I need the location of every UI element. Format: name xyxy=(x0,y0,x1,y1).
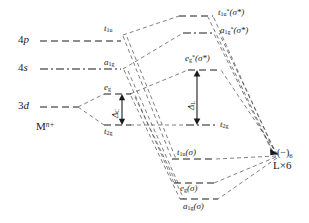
correlation-lines-metal-to-cf xyxy=(78,94,104,125)
label-a1g-sigma: a1g(σ) xyxy=(183,202,204,212)
label-a1g-star: a1g*(σ*) xyxy=(220,26,248,36)
correlation-lines-ligand-to-mo xyxy=(208,16,278,199)
label-t1u-metal: t1u xyxy=(104,24,112,34)
label-ligand-charge: (−)6 xyxy=(277,148,293,159)
correlation-lines-to-mo xyxy=(123,16,188,199)
label-eg-star: eg*(σ*) xyxy=(185,54,210,64)
label-ligand-count: L×6 xyxy=(273,160,291,171)
mo-energy-level-diagram xyxy=(0,0,309,223)
label-3d: 3d xyxy=(18,100,29,111)
label-metal-fragment: Mn+ xyxy=(36,121,54,132)
metal-levels xyxy=(40,41,121,107)
label-a1g-metal: a1g xyxy=(104,58,114,68)
label-4p: 4p xyxy=(18,34,29,45)
label-t1u-sigma: t1u(σ) xyxy=(177,148,196,158)
label-t1u-star: t1u*(σ*) xyxy=(218,8,244,18)
label-eg-cf: eg xyxy=(104,83,111,93)
label-delta-c: ΔC xyxy=(111,109,121,118)
label-4s: 4s xyxy=(18,62,28,73)
label-delta-l: ΔL xyxy=(187,101,197,110)
delta-l-arrow xyxy=(194,70,201,125)
label-t2g-mo: t2g xyxy=(220,120,228,130)
label-t2g-cf: t2g xyxy=(104,127,112,137)
label-eg-sigma: eg(σ) xyxy=(180,184,197,194)
